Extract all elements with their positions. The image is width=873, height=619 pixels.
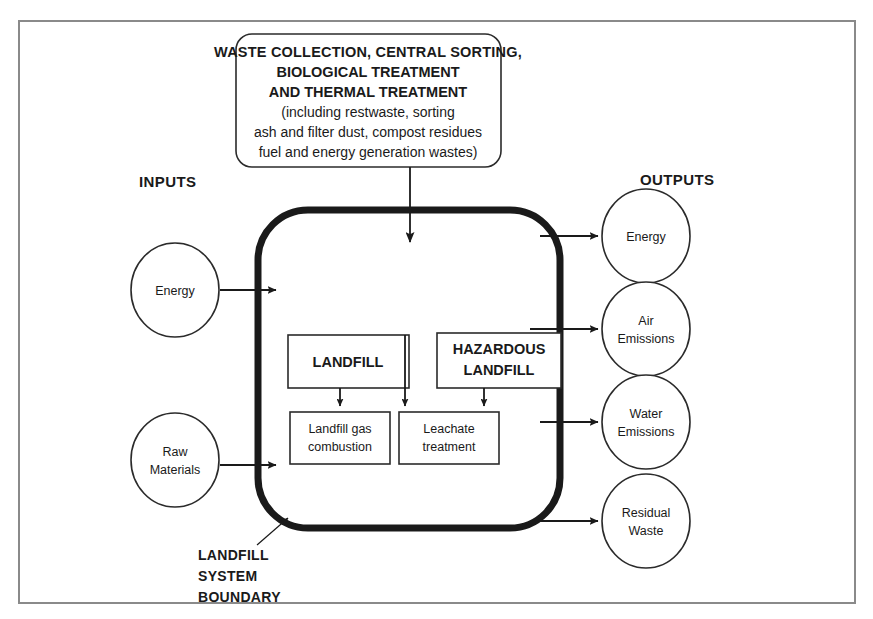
process-leachate-treatment: Leachate treatment [399, 412, 499, 464]
input-node-energy: Energy [131, 243, 219, 337]
boundary-label-line-2: SYSTEM [198, 568, 257, 584]
callout-line-2: BIOLOGICAL TREATMENT [276, 64, 459, 80]
landfill-system-diagram: WASTE COLLECTION, CENTRAL SORTING, BIOLO… [0, 0, 873, 619]
outputs-label: OUTPUTS [640, 171, 714, 188]
output-air-emissions-circle [602, 282, 690, 376]
waste-system-callout: WASTE COLLECTION, CENTRAL SORTING, BIOLO… [214, 34, 522, 167]
output-residual-waste-label-1: Residual [622, 506, 671, 520]
input-raw-materials-label-2: Materials [150, 463, 201, 477]
output-node-water-emissions: Water Emissions [602, 375, 690, 469]
process-leachate-treatment-label-2: treatment [423, 440, 476, 454]
output-node-residual-waste: Residual Waste [602, 474, 690, 568]
process-hazardous-landfill-label-2: LANDFILL [464, 362, 535, 378]
callout-line-4: (including restwaste, sorting [281, 104, 455, 120]
output-water-emissions-label-2: Emissions [618, 425, 675, 439]
process-landfill-gas-combustion-box [290, 412, 390, 464]
process-leachate-treatment-box [399, 412, 499, 464]
input-node-raw-materials: Raw Materials [131, 413, 219, 507]
process-landfill-gas-combustion-label-2: combustion [308, 440, 372, 454]
inputs-label: INPUTS [139, 173, 196, 190]
process-landfill-label: LANDFILL [313, 354, 384, 370]
process-landfill: LANDFILL [288, 335, 409, 388]
output-energy-label: Energy [626, 230, 666, 244]
output-air-emissions-label-2: Emissions [618, 332, 675, 346]
callout-line-3: AND THERMAL TREATMENT [269, 84, 468, 100]
boundary-label-line-3: BOUNDARY [198, 589, 281, 605]
output-residual-waste-circle [602, 474, 690, 568]
output-water-emissions-label-1: Water [630, 407, 663, 421]
output-water-emissions-circle [602, 375, 690, 469]
process-hazardous-landfill: HAZARDOUS LANDFILL [437, 333, 561, 388]
output-air-emissions-label-1: Air [638, 314, 653, 328]
output-residual-waste-label-2: Waste [629, 524, 664, 538]
input-raw-materials-label-1: Raw [162, 445, 188, 459]
callout-line-1: WASTE COLLECTION, CENTRAL SORTING, [214, 44, 522, 60]
callout-line-5: ash and filter dust, compost residues [254, 124, 482, 140]
process-hazardous-landfill-label-1: HAZARDOUS [453, 341, 546, 357]
input-energy-label: Energy [155, 284, 195, 298]
output-node-energy: Energy [602, 189, 690, 283]
callout-line-6: fuel and energy generation wastes) [259, 144, 478, 160]
input-raw-materials-circle [131, 413, 219, 507]
process-leachate-treatment-label-1: Leachate [423, 422, 474, 436]
output-node-air-emissions: Air Emissions [602, 282, 690, 376]
process-landfill-gas-combustion: Landfill gas combustion [290, 412, 390, 464]
process-landfill-gas-combustion-label-1: Landfill gas [308, 422, 371, 436]
boundary-label-line-1: LANDFILL [198, 547, 269, 563]
